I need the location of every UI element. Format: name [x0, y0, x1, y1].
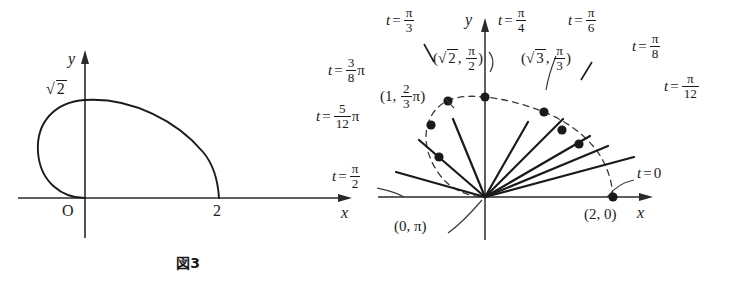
figure3-caption-label: 図3	[176, 255, 200, 271]
figure4-x-axis-label: x	[637, 204, 644, 222]
figure3-x-intercept-label: 2	[213, 203, 221, 219]
figure4-y-axis-label: y	[465, 11, 472, 29]
figure3-y-intercept-label: √2	[46, 80, 67, 97]
label-point-0-pi: (0, π)	[394, 218, 427, 235]
figure3-curve	[38, 100, 219, 198]
label-t-equals-pi-6: t=π6	[568, 6, 597, 35]
figure3-x-axis-label: x	[341, 204, 348, 222]
label-point-2-0: (2, 0)	[584, 206, 617, 223]
figure3-panel: x y √2 O 2 図3	[0, 0, 376, 296]
ray-t-3pi-8	[453, 119, 485, 197]
label-t-equals-3pi-8: t=38π	[328, 56, 365, 85]
label-point-sqrt3-pi-3: (√3, π3)	[521, 44, 571, 73]
figure3-y-axis	[81, 50, 89, 238]
label-t-equals-pi-2: t=π2	[332, 162, 361, 191]
ray-t-pi-8	[485, 146, 608, 197]
point-marker-3pi-8	[426, 120, 435, 129]
figure4-points	[426, 92, 617, 201]
figure3-origin-label: O	[62, 203, 74, 219]
point-marker-pi-8	[557, 125, 566, 134]
label-t-equals-5pi-12: t=512π	[316, 102, 359, 131]
label-t-equals-0: t=0	[637, 166, 661, 181]
figure4-rays	[396, 119, 634, 197]
label-t-equals-pi-8: t=π8	[632, 32, 661, 61]
leader-t-equals-pi-2	[377, 188, 404, 197]
label-t-equals-pi-3: t=π3	[386, 6, 415, 35]
leader-point-sqrt2-pi-2	[489, 52, 493, 72]
point-marker-sqrt2-pi-2	[480, 92, 489, 101]
leader-t-pi-8-tick	[581, 62, 592, 80]
point-marker-pi-6	[539, 107, 548, 116]
point-marker-pi-12	[574, 139, 583, 148]
label-point-1-2pi-3: (1, 23π)	[380, 82, 425, 111]
label-t-equals-pi-4: t=π4	[498, 6, 527, 35]
point-marker-5pi-12	[434, 152, 443, 161]
figure3-caption: 図3	[0, 252, 376, 272]
label-point-sqrt2-pi-2: (√2, π2)	[433, 44, 483, 73]
leader-point-0-pi	[448, 200, 482, 233]
figure4-panel: t=π3 y t=π4 t=π6 t=π8 t=π12 t=38π t=512π…	[376, 0, 753, 296]
label-t-equals-pi-12: t=π12	[664, 72, 700, 101]
figure3-y-axis-label: y	[68, 50, 75, 68]
